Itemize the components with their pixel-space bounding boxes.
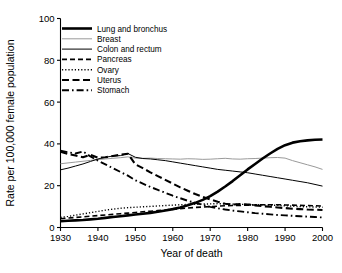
y-tick-label: 60 xyxy=(44,97,55,108)
legend-label-stomach: Stomach xyxy=(97,86,130,95)
legend-label-pancreas: Pancreas xyxy=(97,55,132,64)
legend-label-ovary: Ovary xyxy=(97,66,120,75)
legend-label-colon-and-rectum: Colon and rectum xyxy=(97,45,162,54)
x-tick-label: 1990 xyxy=(275,232,296,243)
chart-figure: 0204060801001930194019501960197019801990… xyxy=(0,0,342,273)
legend-label-lung-and-bronchus: Lung and bronchus xyxy=(97,25,167,34)
series-lines xyxy=(61,140,323,222)
legend-label-breast: Breast xyxy=(97,35,121,44)
x-tick-label: 1960 xyxy=(162,232,183,243)
line-chart: 0204060801001930194019501960197019801990… xyxy=(0,0,342,273)
x-tick-label: 1980 xyxy=(237,232,258,243)
y-tick-label: 100 xyxy=(39,13,55,24)
x-tick-label: 2000 xyxy=(312,232,333,243)
y-axis-title: Rate per 100,000 female population xyxy=(4,39,16,206)
y-tick-label: 40 xyxy=(44,138,55,149)
x-tick-label: 1940 xyxy=(87,232,108,243)
series-line-lung-and-bronchus xyxy=(61,140,323,222)
x-tick-label: 1930 xyxy=(50,232,71,243)
y-tick-label: 80 xyxy=(44,55,55,66)
chart-legend: Lung and bronchusBreastColon and rectumP… xyxy=(62,25,167,96)
legend-label-uterus: Uterus xyxy=(97,76,121,85)
x-tick-label: 1950 xyxy=(125,232,146,243)
x-axis-title: Year of death xyxy=(160,247,222,259)
series-line-pancreas xyxy=(61,205,323,219)
y-tick-label: 20 xyxy=(44,180,55,191)
x-tick-label: 1970 xyxy=(200,232,221,243)
